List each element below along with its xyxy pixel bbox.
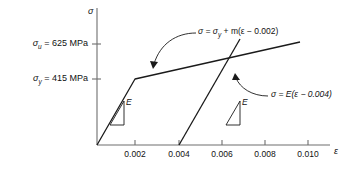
modulus-label-2: E (242, 97, 248, 107)
sigma-axis-label: σ (88, 6, 93, 16)
hardening-eq-tail: + m(ε − 0.002) (221, 26, 278, 36)
hardening-leader-arrow (150, 61, 158, 69)
stress-strain-figure: σ ε σu = 625 MPa σy = 415 MPa 0.002 0.00… (0, 0, 355, 170)
hardening-eq-lead: σ = σ (198, 26, 218, 36)
xtick-label-0010: 0.010 (297, 149, 318, 159)
ultimate-stress-label: σu = 625 MPa (0, 38, 88, 50)
hardening-equation-annotation: σ = σy + m(ε − 0.002) (198, 26, 278, 38)
reload-leader-line (236, 78, 268, 96)
modulus-label-1: E (126, 97, 132, 107)
modulus-triangle-1 (110, 101, 124, 125)
xtick-label-0002: 0.002 (124, 149, 145, 159)
reload-line (179, 39, 240, 145)
yield-stress-label: σy = 415 MPa (0, 73, 88, 85)
modulus-triangle-2 (226, 101, 240, 125)
reload-equation-annotation: σ = E(ε − 0.004) (271, 89, 332, 99)
ultimate-stress-value: = 625 MPa (42, 38, 88, 48)
hardening-leader-line (154, 33, 196, 64)
yield-stress-value: = 415 MPa (42, 73, 88, 83)
xtick-label-0008: 0.008 (254, 149, 275, 159)
xtick-label-0006: 0.006 (211, 149, 232, 159)
stress-strain-curve (97, 42, 300, 145)
reload-leader-arrow (232, 73, 240, 80)
epsilon-axis-label: ε (334, 146, 338, 156)
chart-canvas (0, 0, 355, 170)
xtick-label-0004: 0.004 (168, 149, 189, 159)
